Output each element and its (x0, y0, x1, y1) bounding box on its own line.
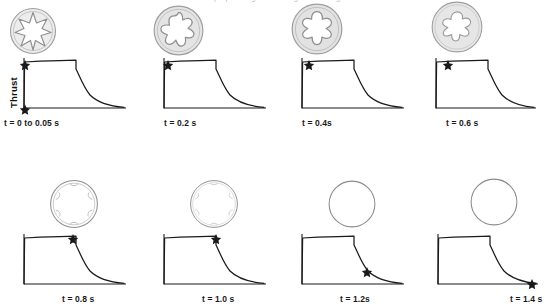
star-marker (527, 279, 537, 289)
panel-1: Thrust t = 0 to 0.05 s (0, 0, 136, 154)
thrust-time-plot-2 (140, 50, 276, 120)
six-point-star-grain-icon (430, 0, 484, 54)
six-point-star-grain-icon (8, 6, 58, 56)
plot-holder-2 (140, 50, 276, 120)
thrust-time-plot-6 (140, 226, 276, 296)
six-point-star-grain-icon (468, 176, 520, 228)
panel-4: t = 0.6 s (412, 0, 545, 154)
grain-holder-7 (278, 176, 414, 232)
grain-holder-4 (412, 0, 545, 56)
figure-root: propellant grain burning surface regress… (0, 0, 545, 308)
star-marker (362, 267, 372, 277)
plot-holder-6 (140, 226, 276, 296)
six-point-star-grain-icon (188, 178, 240, 230)
thrust-curve (24, 236, 124, 284)
thrust-time-plot-1 (0, 50, 136, 120)
time-label-7: t = 1.2s (340, 294, 370, 304)
plot-holder-5 (0, 226, 136, 296)
y-axis-title: Thrust (8, 77, 19, 108)
plot-holder-7 (278, 226, 414, 296)
plot-holder-8 (412, 226, 545, 296)
panel-2: t = 0.2 s (140, 0, 276, 154)
grain-holder-5 (0, 176, 136, 232)
panel-6: t = 1.0 s (140, 176, 276, 308)
thrust-curve (164, 60, 264, 108)
plot-holder-3 (278, 50, 414, 120)
thrust-curve (302, 60, 402, 108)
thrust-time-plot-4 (412, 50, 545, 120)
time-label-1: t = 0 to 0.05 s (4, 118, 59, 128)
thrust-time-plot-3 (278, 50, 414, 120)
thrust-curve (302, 236, 402, 284)
time-label-3: t = 0.4s (302, 118, 332, 128)
grain-holder-3 (278, 0, 414, 56)
star-marker (68, 234, 78, 244)
time-label-4: t = 0.6 s (446, 118, 478, 128)
panel-8: t = 1.4 s (412, 176, 545, 308)
six-point-star-grain-icon (290, 2, 344, 56)
grain-holder-1 (0, 0, 136, 56)
thrust-curve (436, 60, 534, 108)
grain-holder-2 (140, 0, 276, 56)
six-point-star-grain-icon (326, 178, 378, 230)
thrust-curve (24, 60, 124, 108)
thrust-time-plot-8 (412, 226, 545, 296)
time-label-5: t = 0.8 s (62, 294, 94, 304)
time-label-8: t = 1.4 s (510, 294, 542, 304)
plot-holder-1 (0, 50, 136, 120)
panel-7: t = 1.2s (278, 176, 414, 308)
grain-holder-8 (412, 176, 545, 232)
star-marker-origin (20, 105, 30, 115)
time-label-6: t = 1.0 s (202, 294, 234, 304)
six-point-star-grain-icon (48, 178, 100, 230)
thrust-time-plot-5 (0, 226, 136, 296)
thrust-time-plot-7 (278, 226, 414, 296)
plot-holder-4 (412, 50, 545, 120)
thrust-curve (438, 236, 536, 284)
grain-holder-6 (140, 176, 276, 232)
panel-5: t = 0.8 s (0, 176, 136, 308)
panel-3: t = 0.4s (278, 0, 414, 154)
time-label-2: t = 0.2 s (164, 118, 196, 128)
